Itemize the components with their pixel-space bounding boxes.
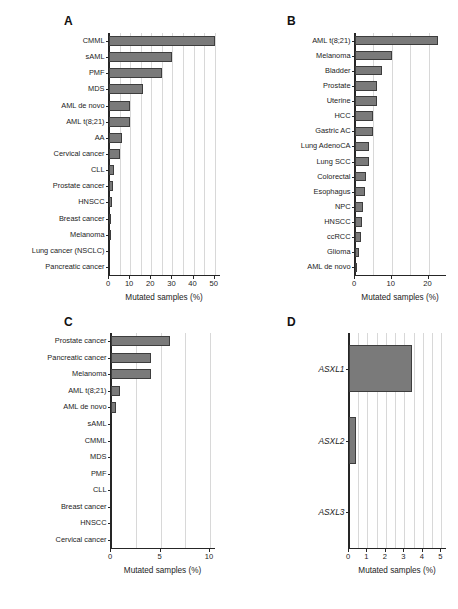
y-axis-label: NPC: [335, 203, 355, 210]
bar: [109, 84, 143, 94]
bar: [111, 386, 120, 396]
x-axis-line: [348, 548, 446, 549]
bar: [109, 214, 111, 224]
bar: [355, 263, 357, 272]
x-axis-tick-label: 1: [364, 553, 368, 561]
y-axis-label: MDS: [90, 453, 111, 460]
bar: [109, 197, 112, 207]
panel-c: C Prostate cancerPancreatic cancerMelano…: [0, 305, 229, 609]
y-axis-label: AA: [95, 134, 109, 141]
y-axis-label: PMF: [91, 470, 111, 477]
gridline-minor: [183, 33, 184, 275]
bar: [109, 36, 215, 46]
bar: [111, 402, 116, 412]
gridline-minor: [410, 33, 411, 275]
y-axis-label: ASXL3: [318, 508, 349, 516]
gridline-minor: [432, 333, 433, 548]
y-axis-label: Pancreatic cancer: [45, 263, 109, 270]
gridline-minor: [414, 333, 415, 548]
y-axis-label: HNSCC: [78, 199, 109, 206]
y-axis-label: Uterine: [327, 97, 355, 104]
x-axis-line: [110, 548, 215, 549]
x-axis-tick-label: 10: [387, 280, 395, 288]
gridline: [215, 33, 216, 275]
y-axis-label: AML t(8;21): [68, 387, 111, 394]
y-axis-label: HNSCC: [324, 218, 355, 225]
y-axis-label: HNSCC: [80, 519, 111, 526]
bar: [355, 66, 382, 75]
x-axis-tick-label: 3: [401, 553, 405, 561]
panel-a: A CMMLsAMLPMFMDSAML de novoAML t(8;21)AA…: [0, 0, 229, 305]
gridline-minor: [204, 33, 205, 275]
y-axis-label: Breast cancer: [61, 503, 111, 510]
y-axis-label: AML de novo: [63, 404, 111, 411]
y-axis-label: Breast cancer: [59, 215, 109, 222]
x-axis-tick-label: 0: [108, 553, 112, 561]
y-axis-label: AML de novo: [61, 102, 109, 109]
panel-c-letter: C: [64, 315, 73, 329]
bar: [355, 248, 359, 257]
y-axis-label: Prostate cancer: [53, 183, 109, 190]
bar: [109, 68, 162, 78]
x-axis-tick-label: 50: [209, 280, 217, 288]
x-axis-tick-label: 10: [205, 553, 213, 561]
gridline: [172, 33, 173, 275]
bar: [355, 232, 361, 241]
bar: [109, 117, 130, 127]
y-axis-label: Melanoma: [316, 52, 355, 59]
bar: [355, 127, 373, 136]
y-axis-label: Lung AdenoCA: [301, 143, 355, 150]
panel-b: B AML t(8;21)MelanomaBladderProstateUter…: [229, 0, 458, 305]
gridline: [161, 333, 162, 548]
panel-b-letter: B: [287, 14, 296, 28]
panel-a-plot-area: CMMLsAMLPMFMDSAML de novoAML t(8;21)AACe…: [108, 33, 220, 275]
bar: [355, 81, 377, 90]
gridline: [392, 33, 393, 275]
panel-c-xaxis-title: Mutated samples (%): [105, 567, 220, 575]
x-axis-tick-label: 5: [157, 553, 161, 561]
bar: [111, 353, 151, 363]
y-axis-label: MDS: [88, 86, 109, 93]
bar: [109, 52, 172, 62]
x-axis-tick-label: 10: [125, 280, 133, 288]
gridline: [210, 333, 211, 548]
gridline: [111, 333, 112, 548]
bar: [355, 51, 392, 60]
gridline: [441, 333, 442, 548]
x-axis-tick-label: 40: [188, 280, 196, 288]
panel-b-xaxis-title: Mutated samples (%): [347, 294, 453, 302]
bar: [109, 101, 130, 111]
panel-d-plot: ASXL1ASXL2ASXL3 012345: [348, 333, 446, 548]
y-axis-label: HCC: [334, 112, 355, 119]
y-axis-label: Pancreatic cancer: [47, 354, 111, 361]
panel-a-xaxis-title: Mutated samples (%): [108, 294, 220, 302]
y-axis-label: CMML: [85, 437, 111, 444]
bar: [355, 187, 365, 196]
bar: [355, 142, 369, 151]
bar: [109, 165, 114, 175]
gridline-minor: [185, 333, 186, 548]
bar: [109, 230, 111, 240]
bar: [109, 149, 120, 159]
y-axis-label: Melanoma: [72, 371, 111, 378]
y-axis-label: Cervical cancer: [56, 536, 111, 543]
y-axis-label: Melanoma: [70, 231, 109, 238]
panel-a-plot: CMMLsAMLPMFMDSAML de novoAML t(8;21)AACe…: [108, 33, 220, 275]
x-axis-tick-label: 2: [383, 553, 387, 561]
panel-c-plot-area: Prostate cancerPancreatic cancerMelanoma…: [110, 333, 215, 548]
y-axis-label: Esophagus: [314, 188, 355, 195]
y-axis-label: CLL: [93, 486, 111, 493]
figure-canvas: A CMMLsAMLPMFMDSAML de novoAML t(8;21)AA…: [0, 0, 458, 609]
bar: [355, 36, 438, 45]
gridline: [194, 33, 195, 275]
y-axis-label: ASXL1: [318, 365, 349, 373]
y-axis-label: sAML: [88, 420, 111, 427]
x-axis-tick-label: 20: [146, 280, 154, 288]
x-axis-line: [108, 275, 220, 276]
bar: [355, 202, 363, 211]
panel-b-plot-area: AML t(8;21)MelanomaBladderProstateUterin…: [354, 33, 446, 275]
y-axis-label: Prostate: [323, 82, 355, 89]
bar: [355, 217, 362, 226]
y-axis-label: CLL: [91, 166, 109, 173]
bar: [111, 336, 170, 346]
